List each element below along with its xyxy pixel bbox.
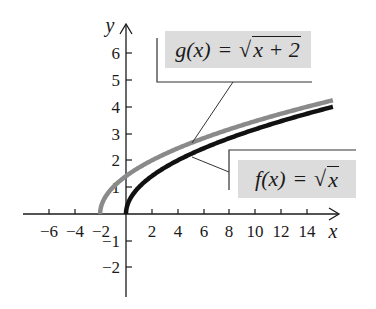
y-axis-label: y bbox=[104, 14, 115, 37]
g-radicand: x + 2 bbox=[252, 36, 301, 63]
y-tick-label: 3 bbox=[112, 125, 121, 144]
g-formula-label: g(x) = √x + 2 bbox=[165, 31, 311, 68]
radical-icon: √ bbox=[239, 37, 251, 63]
radical-icon: √ bbox=[314, 166, 326, 192]
y-tick-label: −2 bbox=[102, 258, 120, 277]
x-tick-label: −6 bbox=[40, 222, 58, 241]
x-tick-label: 10 bbox=[247, 222, 264, 241]
x-tick-label: 4 bbox=[174, 222, 183, 241]
x-ticks bbox=[49, 209, 307, 214]
f-radicand-text: x bbox=[328, 167, 338, 192]
f-equals: = bbox=[294, 166, 306, 192]
g-function-name: g(x) bbox=[175, 37, 210, 63]
y-tick-label: 4 bbox=[112, 98, 121, 117]
x-tick-label: 2 bbox=[148, 222, 157, 241]
y-tick-label: 5 bbox=[112, 71, 121, 90]
f-leader-line bbox=[192, 157, 229, 172]
y-tick-label: 2 bbox=[112, 151, 121, 170]
f-radicand: x bbox=[327, 166, 339, 193]
x-tick-label: 8 bbox=[225, 222, 234, 241]
f-formula-label: f(x) = √x bbox=[238, 160, 356, 198]
x-tick-label: 12 bbox=[273, 222, 290, 241]
x-tick-label: 6 bbox=[200, 222, 209, 241]
x-tick-label: 14 bbox=[299, 222, 317, 241]
f-function-name: f(x) bbox=[255, 166, 286, 192]
g-radicand-text: x + 2 bbox=[253, 37, 300, 62]
x-tick-label: −4 bbox=[66, 222, 85, 241]
g-equals: = bbox=[219, 37, 231, 63]
y-tick-label: −1 bbox=[102, 232, 120, 251]
x-axis-label: x bbox=[328, 220, 338, 242]
y-ticks bbox=[126, 53, 132, 267]
y-tick-label: 6 bbox=[112, 44, 121, 63]
